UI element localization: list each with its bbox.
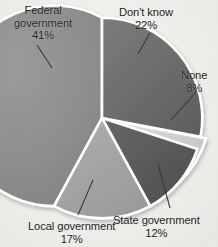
pie-value-dont-know: 22%	[119, 19, 173, 32]
pie-label-state-government: State government 12%	[113, 214, 200, 239]
pie-value-none: 8%	[181, 82, 207, 95]
pie-value-local-government: 17%	[28, 233, 115, 246]
pie-label-dont-know-title: Don't know	[119, 6, 173, 18]
pie-value-federal-government: 41%	[14, 29, 72, 42]
pie-label-federal-government: Federal government 41%	[14, 4, 72, 42]
pie-chart: Federal government 41% Don't know 22% No…	[0, 0, 218, 247]
pie-value-state-government: 12%	[113, 227, 200, 240]
pie-label-local-government: Local government 17%	[28, 220, 115, 245]
pie-label-federal-government-line2: government	[14, 17, 72, 29]
pie-label-none-title: None	[181, 69, 207, 81]
pie-label-federal-government-line1: Federal	[24, 4, 61, 16]
pie-label-local-government-title: Local government	[28, 220, 115, 232]
pie-label-none: None 8%	[181, 69, 207, 94]
pie-label-dont-know: Don't know 22%	[119, 6, 173, 31]
pie-label-state-government-title: State government	[113, 214, 200, 226]
